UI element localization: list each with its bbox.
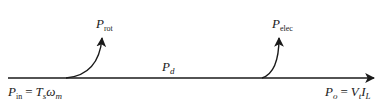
electrical-loss-arrow [262, 38, 279, 78]
power-flow-diagram: Prot Pelec Pd Pin=Tsωm Po=VtIL [0, 0, 382, 109]
rotational-loss-label: Prot [95, 16, 114, 33]
input-power-label: Pin=Tsωm [7, 84, 62, 101]
electrical-loss-label: Pelec [271, 16, 293, 33]
developed-power-label: Pd [161, 59, 175, 76]
rotational-loss-arrow [66, 38, 102, 78]
output-power-label: Po=VtIL [324, 84, 371, 101]
